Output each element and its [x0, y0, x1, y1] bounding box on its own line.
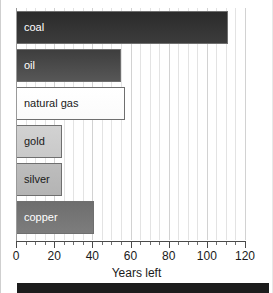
tick-minor	[64, 242, 65, 245]
gridline-major	[245, 8, 246, 240]
x-tick-label: 20	[47, 249, 60, 263]
bar-label: copper	[17, 212, 58, 223]
bar-row: gold	[16, 125, 245, 158]
x-axis-ticks	[16, 242, 246, 248]
bar-silver[interactable]: silver	[16, 163, 62, 196]
bar-row: silver	[16, 163, 245, 196]
tick-minor	[35, 242, 36, 245]
bar-oil[interactable]: oil	[16, 49, 121, 82]
bar-label: oil	[17, 60, 35, 71]
tick-minor	[83, 242, 84, 245]
bar-label: natural gas	[17, 98, 78, 109]
tick-major	[131, 242, 132, 248]
tick-minor	[73, 242, 74, 245]
tick-major	[169, 242, 170, 248]
x-axis-title: Years left	[0, 266, 273, 280]
x-tick-label: 100	[197, 249, 217, 263]
tick-minor	[26, 242, 27, 245]
tick-minor	[216, 242, 217, 245]
tick-minor	[235, 242, 236, 245]
x-axis-tick-labels: 020406080100120	[0, 249, 273, 265]
tick-minor	[178, 242, 179, 245]
bar-coal[interactable]: coal	[16, 11, 228, 44]
tick-major	[207, 242, 208, 248]
x-tick-label: 40	[86, 249, 99, 263]
tick-minor	[102, 242, 103, 245]
bar-row: coal	[16, 11, 245, 44]
bar-natural-gas[interactable]: natural gas	[16, 87, 125, 120]
bar-label: silver	[17, 174, 50, 185]
tick-major	[92, 242, 93, 248]
tick-minor	[45, 242, 46, 245]
tick-minor	[140, 242, 141, 245]
tick-minor	[150, 242, 151, 245]
bar-label: coal	[17, 22, 44, 33]
bar-row: copper	[16, 201, 245, 234]
plot-area: coaloilnatural gasgoldsilvercopper	[16, 8, 245, 240]
bottom-band	[17, 283, 269, 293]
x-tick-label: 120	[235, 249, 255, 263]
bar-row: oil	[16, 49, 245, 82]
bar-copper[interactable]: copper	[16, 201, 94, 234]
bars-group: coaloilnatural gasgoldsilvercopper	[16, 8, 245, 240]
tick-minor	[226, 242, 227, 245]
tick-minor	[159, 242, 160, 245]
tick-minor	[111, 242, 112, 245]
tick-minor	[188, 242, 189, 245]
tick-major	[54, 242, 55, 248]
x-tick-label: 60	[124, 249, 137, 263]
bar-gold[interactable]: gold	[16, 125, 62, 158]
tick-major	[16, 242, 17, 248]
bar-row: natural gas	[16, 87, 245, 120]
y-axis-line	[16, 8, 17, 241]
x-tick-label: 0	[13, 249, 20, 263]
bar-chart-figure: coaloilnatural gasgoldsilvercopper 02040…	[0, 0, 273, 293]
x-tick-label: 80	[162, 249, 175, 263]
tick-minor	[197, 242, 198, 245]
bar-label: gold	[17, 136, 45, 147]
tick-minor	[121, 242, 122, 245]
tick-major	[245, 242, 246, 248]
